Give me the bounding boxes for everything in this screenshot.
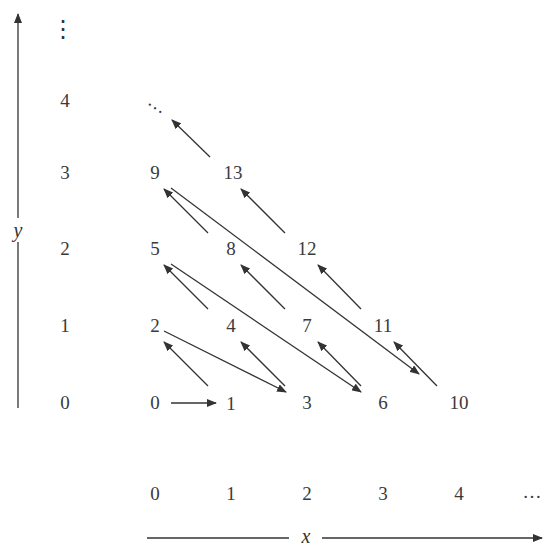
cell-2: 2	[150, 315, 160, 337]
cell-0: 0	[150, 392, 160, 414]
arrow-10-11	[394, 342, 437, 386]
arrow-4-5	[164, 265, 208, 309]
x-tick-2: 2	[302, 483, 312, 505]
x-tick-4: 4	[454, 483, 464, 505]
cell-6: 6	[378, 392, 388, 414]
cell-13: 13	[224, 162, 243, 184]
arrow-7-8	[241, 265, 285, 309]
arrow-13-more	[172, 120, 210, 157]
cell-5: 5	[150, 238, 160, 260]
cell-3: 3	[302, 392, 312, 414]
arrow-12-13	[241, 189, 285, 233]
enumeration-arrows	[164, 120, 437, 403]
arrow-5-6	[171, 264, 361, 392]
y-tick-ellipsis: ⋮	[51, 15, 75, 43]
x-tick-3: 3	[378, 483, 388, 505]
arrow-3-4	[241, 342, 285, 386]
cell-4: 4	[226, 315, 236, 337]
cell-12: 12	[298, 238, 317, 260]
y-tick-3: 3	[60, 162, 70, 184]
y-tick-2: 2	[60, 238, 70, 260]
arrow-2-3	[164, 331, 286, 392]
y-tick-1: 1	[60, 315, 70, 337]
arrow-9-10	[171, 188, 419, 374]
arrow-6-7	[318, 342, 361, 386]
y-axis-label: y	[11, 219, 26, 242]
diagram-lines	[0, 0, 552, 547]
x-axis-label: x	[299, 525, 314, 547]
cell-11: 11	[374, 315, 392, 337]
cell-7: 7	[302, 315, 312, 337]
x-tick-ellipsis: …	[523, 481, 542, 503]
x-tick-0: 0	[150, 483, 160, 505]
y-tick-0: 0	[60, 392, 70, 414]
y-tick-4: 4	[60, 90, 70, 112]
x-tick-1: 1	[226, 483, 236, 505]
arrow-1-2	[164, 342, 208, 386]
cell-9: 9	[150, 162, 160, 184]
cell-8: 8	[226, 238, 236, 260]
cell-1: 1	[226, 393, 236, 415]
cell-10: 10	[450, 392, 469, 414]
pairing-diagram: y x 0 1 2 3 4 ⋮ 0 1 2 3 4 … 0 1 2 3 4 5 …	[0, 0, 552, 547]
